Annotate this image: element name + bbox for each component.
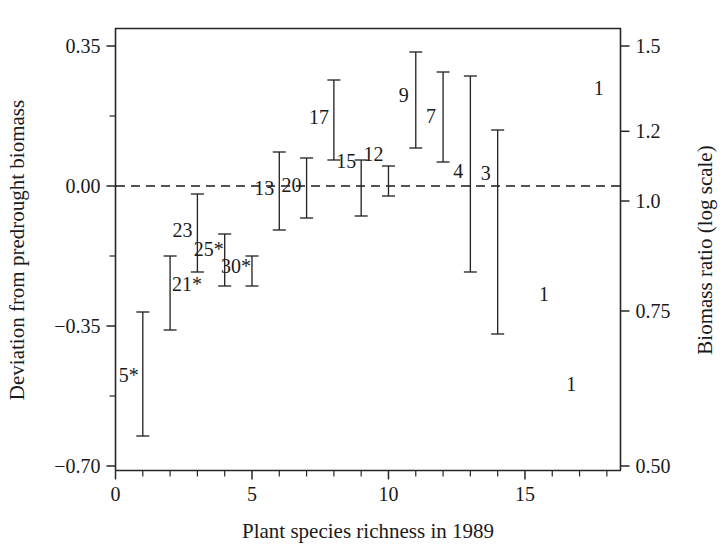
- lone-point-label: 1: [539, 283, 549, 305]
- error-bar: [355, 160, 368, 216]
- point-label: 3: [481, 162, 491, 184]
- point-label: 23: [172, 219, 192, 241]
- point-label: 12: [363, 143, 383, 165]
- error-bar: [327, 80, 340, 160]
- y-tick-label-right: 0.50: [636, 455, 671, 477]
- y-tick-label-left: 0.35: [66, 35, 101, 57]
- point-label: 5*: [119, 364, 139, 386]
- y-tick-label-right: 1.0: [636, 190, 661, 212]
- x-tick-label: 10: [378, 483, 398, 505]
- point-label: 7: [426, 105, 436, 127]
- point-label: 4: [453, 160, 463, 182]
- plot-frame: [115, 28, 621, 471]
- error-bar: [300, 158, 313, 218]
- lone-point-label: 1: [594, 77, 604, 99]
- point-label: 15: [336, 150, 356, 172]
- error-bar: [382, 166, 395, 196]
- point-label: 21*: [172, 273, 202, 295]
- point-label: 17: [309, 106, 329, 128]
- y-axis-title-right: Biomass ratio (log scale): [693, 145, 717, 354]
- scatter-plot-with-error-bars: 0.350.00−0.35−0.70 1.51.21.00.750.50 051…: [0, 0, 727, 550]
- y-axis-right-ticks: 1.51.21.00.750.50: [621, 35, 671, 477]
- point-label: 20: [282, 174, 302, 196]
- y-tick-label-left: −0.70: [54, 455, 100, 477]
- x-tick-label: 0: [111, 483, 121, 505]
- y-tick-label-left: 0.00: [66, 175, 101, 197]
- point-label: 9: [399, 84, 409, 106]
- lone-label-group: 111: [539, 77, 604, 395]
- y-tick-label-right: 1.2: [636, 120, 661, 142]
- y-axis-left-ticks: 0.350.00−0.35−0.70: [54, 35, 115, 477]
- x-tick-label: 5: [247, 483, 257, 505]
- error-bar: [437, 72, 450, 162]
- point-label-group: 5*21*2325*30*13201715129743: [119, 84, 491, 386]
- lone-point-label: 1: [566, 373, 576, 395]
- point-label: 25*: [194, 238, 224, 260]
- figure-container: 0.350.00−0.35−0.70 1.51.21.00.750.50 051…: [0, 0, 727, 550]
- y-tick-label-right: 0.75: [636, 300, 671, 322]
- y-tick-label-right: 1.5: [636, 35, 661, 57]
- error-bar: [409, 52, 422, 148]
- error-bar: [191, 194, 204, 272]
- point-label: 13: [254, 177, 274, 199]
- error-bar: [491, 130, 504, 334]
- y-axis-title-left: Deviation from predrought biomass: [5, 100, 29, 400]
- point-label: 30*: [221, 255, 251, 277]
- y-tick-label-left: −0.35: [54, 315, 100, 337]
- error-bar: [464, 76, 477, 272]
- x-axis-title: Plant species richness in 1989: [242, 519, 494, 543]
- x-axis-ticks: 051015: [111, 471, 607, 505]
- x-tick-label: 15: [515, 483, 535, 505]
